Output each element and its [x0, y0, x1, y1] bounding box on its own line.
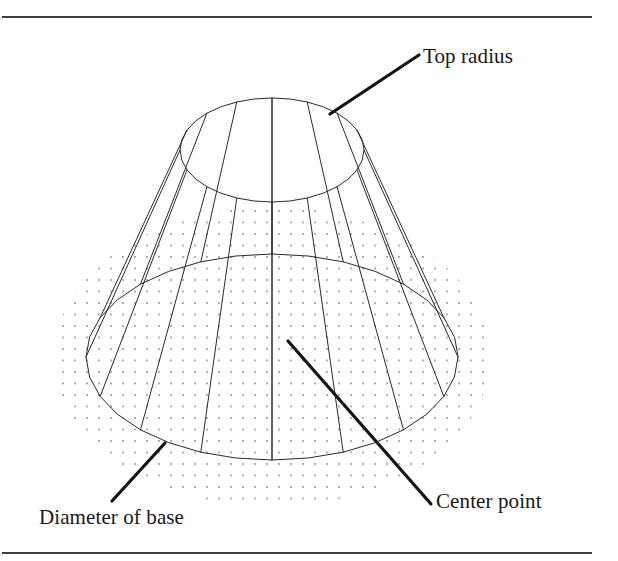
ground-plane-dot-field [40, 195, 510, 525]
figure-root: Top radius Center point Diameter of base [0, 0, 618, 561]
label-diameter-of-base: Diameter of base [39, 507, 184, 528]
label-center-point: Center point [436, 491, 542, 512]
frustum-diagram-svg [0, 0, 618, 561]
leader-line-top-radius [330, 55, 419, 114]
label-top-radius: Top radius [423, 46, 513, 67]
